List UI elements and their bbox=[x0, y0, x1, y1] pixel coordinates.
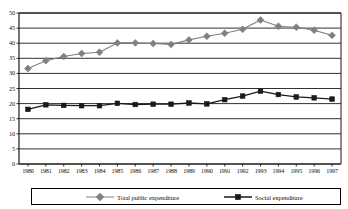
data-point-marker bbox=[96, 49, 103, 56]
data-point-marker bbox=[312, 96, 317, 101]
legend-label: Total public expenditure bbox=[117, 193, 179, 200]
data-point-marker bbox=[222, 97, 227, 102]
data-point-marker bbox=[240, 94, 245, 99]
data-point-marker bbox=[96, 193, 104, 201]
legend-item: Social expenditure bbox=[224, 192, 302, 201]
legend-item: Total public expenditure bbox=[86, 192, 179, 201]
legend-square-marker-icon bbox=[224, 192, 252, 201]
data-point-marker bbox=[44, 103, 49, 108]
data-point-marker bbox=[235, 194, 240, 199]
data-point-marker bbox=[150, 40, 157, 47]
data-point-marker bbox=[257, 16, 264, 23]
legend-diamond-marker-icon bbox=[86, 192, 114, 201]
data-point-marker bbox=[203, 33, 210, 40]
series-total-public-expenditure bbox=[24, 16, 335, 72]
data-point-marker bbox=[221, 30, 228, 37]
data-point-marker bbox=[169, 102, 174, 107]
data-point-marker bbox=[276, 92, 281, 97]
data-point-marker bbox=[78, 50, 85, 57]
legend-label: Social expenditure bbox=[255, 193, 302, 200]
data-point-marker bbox=[24, 65, 31, 72]
data-point-marker bbox=[329, 32, 336, 39]
data-point-marker bbox=[168, 41, 175, 48]
data-point-marker bbox=[79, 103, 84, 108]
data-point-marker bbox=[97, 103, 102, 108]
data-point-marker bbox=[258, 89, 263, 94]
data-point-marker bbox=[115, 101, 120, 106]
line-chart: 50454035302520151050 1980198119821983198… bbox=[0, 0, 348, 209]
chart-canvas bbox=[0, 0, 348, 180]
series-social-expenditure bbox=[26, 89, 335, 112]
data-point-marker bbox=[185, 36, 192, 43]
data-point-marker bbox=[205, 102, 210, 107]
data-point-marker bbox=[239, 26, 246, 33]
data-point-marker bbox=[293, 24, 300, 31]
data-point-marker bbox=[60, 53, 67, 60]
data-point-marker bbox=[294, 95, 299, 100]
data-point-marker bbox=[114, 39, 121, 46]
plot-area: 50454035302520151050 1980198119821983198… bbox=[0, 0, 348, 180]
chart-legend: Total public expenditureSocial expenditu… bbox=[31, 188, 341, 205]
data-point-marker bbox=[187, 101, 192, 106]
data-point-marker bbox=[275, 23, 282, 30]
data-point-marker bbox=[61, 103, 66, 108]
data-point-marker bbox=[151, 102, 156, 107]
data-point-marker bbox=[133, 102, 138, 107]
data-point-marker bbox=[330, 97, 335, 102]
data-point-marker bbox=[26, 107, 31, 112]
data-point-marker bbox=[132, 39, 139, 46]
